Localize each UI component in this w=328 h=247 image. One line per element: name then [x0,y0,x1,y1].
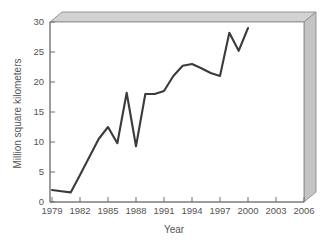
chart-figure: 30 25 20 15 10 5 0 1979 1982 1985 1988 1… [0,0,328,247]
plot-panel [50,22,304,202]
x-tick-label-1994: 1994 [177,205,207,216]
x-tick-label-1991: 1991 [149,205,179,216]
y-axis-title: Million square kilometers [12,34,23,194]
x-tick-label-1997: 1997 [205,205,235,216]
x-tick-label-2006: 2006 [289,205,319,216]
x-tick-label-1985: 1985 [93,205,123,216]
y-tick-label-15: 15 [24,106,44,117]
box-right-face [304,12,316,202]
y-tick-label-30: 30 [24,16,44,27]
x-tick-label-2003: 2003 [261,205,291,216]
y-tick-label-10: 10 [24,136,44,147]
y-tick-label-25: 25 [24,46,44,57]
y-tick-label-5: 5 [24,166,44,177]
x-tick-label-2000: 2000 [233,205,263,216]
x-tick-label-1979: 1979 [37,205,67,216]
box-top-face [50,12,316,22]
x-axis-title: Year [84,224,264,235]
x-tick-label-1982: 1982 [65,205,95,216]
y-tick-label-20: 20 [24,76,44,87]
x-tick-label-1988: 1988 [121,205,151,216]
